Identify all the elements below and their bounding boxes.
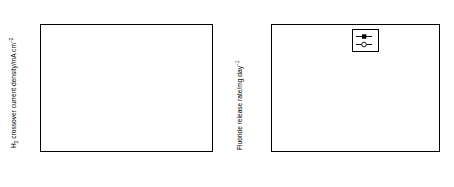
panel-a: H2 crossover current density/mA cm−2 — [0, 0, 227, 187]
panel-a-data-canvas — [41, 25, 214, 153]
legend-entry-cathode — [356, 41, 374, 49]
panel-b: Fluoride release rate/mg day−1 — [227, 0, 454, 187]
panel-a-plot-area — [40, 24, 213, 152]
figure-container: H2 crossover current density/mA cm−2 Flu… — [0, 0, 454, 187]
panel-b-legend — [352, 29, 379, 52]
panel-a-y-axis-label: H2 crossover current density/mA cm−2 — [10, 38, 17, 148]
legend-swatch-anode-side — [356, 33, 372, 40]
legend-entry-anode — [356, 33, 374, 41]
legend-swatch-cathode-side — [356, 41, 372, 48]
panel-b-y-axis-label: Fluoride release rate/mg day−1 — [236, 61, 243, 150]
